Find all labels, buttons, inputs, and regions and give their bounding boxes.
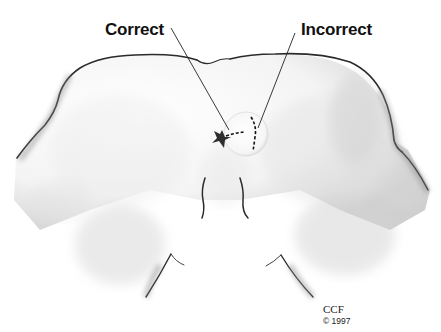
incorrect-label: Incorrect [301, 20, 372, 40]
credit-organization: CCF [323, 303, 344, 315]
anatomy-illustration [0, 0, 441, 332]
correct-label: Correct [105, 20, 164, 40]
buttocks-body [14, 54, 430, 285]
credit-copyright: © 1997 [323, 316, 351, 326]
